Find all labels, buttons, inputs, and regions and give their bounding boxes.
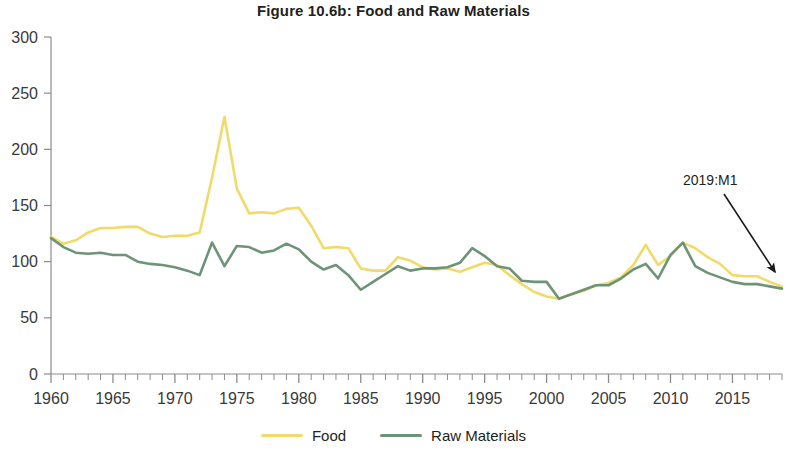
x-axis-tick-label: 1995 <box>467 390 503 407</box>
y-axis-tick-label: 200 <box>11 141 38 158</box>
x-axis-ticks <box>51 374 782 383</box>
x-axis-tick-label: 1960 <box>33 390 69 407</box>
legend-swatch-food <box>261 434 303 438</box>
y-axis-tick-label: 50 <box>20 309 38 326</box>
chart-axes <box>44 37 782 383</box>
annotation-2019-m1-label: 2019:M1 <box>683 172 737 188</box>
chart-canvas: 050100150200250300 196019651970197519801… <box>0 0 787 452</box>
x-axis-tick-label: 1970 <box>157 390 193 407</box>
x-axis-tick-label: 2000 <box>529 390 565 407</box>
y-axis-ticks <box>44 37 51 374</box>
x-axis-tick-label: 1975 <box>219 390 255 407</box>
y-axis-tick-label: 100 <box>11 253 38 270</box>
y-axis-tick-label: 250 <box>11 85 38 102</box>
legend-label-food: Food <box>312 427 346 444</box>
legend-label-raw-materials: Raw Materials <box>431 427 526 444</box>
legend-swatch-raw-materials <box>380 434 422 438</box>
annotation-arrow-group <box>724 194 775 272</box>
x-axis-tick-label: 1980 <box>281 390 317 407</box>
x-axis-tick-label: 1990 <box>405 390 441 407</box>
y-axis-tick-label: 150 <box>11 197 38 214</box>
x-axis-tick-label: 2005 <box>591 390 627 407</box>
y-axis-tick-label: 300 <box>11 29 38 46</box>
x-axis-tick-label: 1965 <box>95 390 131 407</box>
x-axis-tick-label: 1985 <box>343 390 379 407</box>
x-axis-tick-labels: 1960196519701975198019851990199520002005… <box>33 390 750 407</box>
legend-item-food[interactable]: Food <box>261 427 346 444</box>
x-axis-tick-label: 2015 <box>715 390 751 407</box>
y-axis-tick-labels: 050100150200250300 <box>11 29 38 383</box>
chart-series-group <box>51 117 782 299</box>
annotation-arrow-icon <box>724 194 775 272</box>
chart-legend: Food Raw Materials <box>0 427 787 444</box>
y-axis-tick-label: 0 <box>29 366 38 383</box>
x-axis-tick-label: 2010 <box>653 390 689 407</box>
series-line-food <box>51 117 782 299</box>
legend-item-raw-materials[interactable]: Raw Materials <box>380 427 526 444</box>
figure-container: Figure 10.6b: Food and Raw Materials 050… <box>0 0 787 452</box>
series-line-raw-materials <box>51 238 782 299</box>
